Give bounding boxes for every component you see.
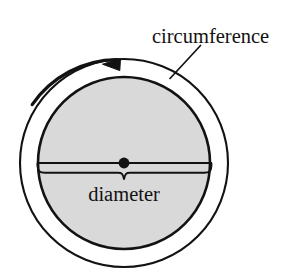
diameter-label: diameter: [88, 183, 160, 205]
center-dot-icon: [119, 158, 130, 169]
circumference-label: circumference: [152, 25, 269, 47]
diagram-canvas: circumference diameter: [0, 0, 295, 279]
circle-diagram: circumference diameter: [0, 0, 295, 279]
